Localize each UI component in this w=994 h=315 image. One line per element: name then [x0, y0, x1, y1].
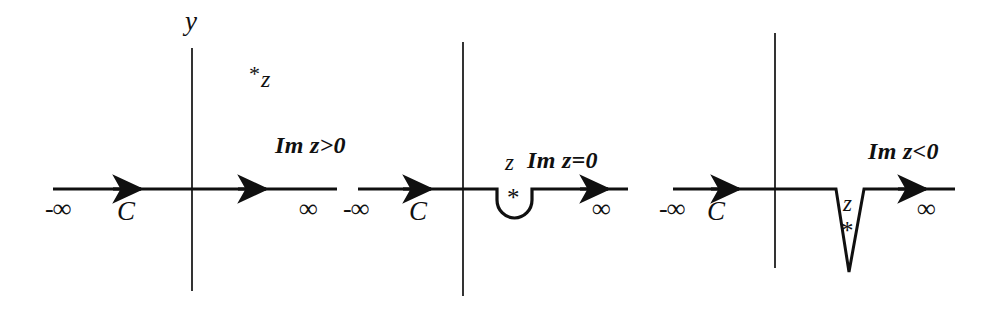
panel-3-right-limit-label: ∞	[917, 196, 935, 222]
panel-1-contour-label: C	[117, 198, 135, 225]
panel-2-condition-label: Im z=0	[527, 148, 598, 172]
panel-1-right-limit-label: ∞	[299, 196, 317, 222]
contour-diagram-canvas	[0, 0, 994, 315]
panel-2-contour-line	[358, 189, 628, 218]
panel-2-pole-name: z	[505, 151, 514, 174]
panel-3-condition-label: Im z<0	[868, 139, 939, 163]
contour-diagram-figure: y *z Im z>0 -∞ C ∞ -∞ C z Im z=0 * ∞ -∞ …	[0, 0, 994, 315]
panel-1-pole-marker-label: *z	[249, 63, 270, 91]
panel-3-pole-asterisk: *	[841, 218, 854, 243]
panel-3-left-limit-label: -∞	[659, 196, 684, 222]
panel-1-pole-asterisk: *	[249, 61, 260, 86]
panel-2-left-limit-label: -∞	[343, 196, 368, 222]
panel-1-left-limit-label: -∞	[45, 196, 70, 222]
panel-1-pole-name: z	[261, 66, 270, 92]
panel-2-right-limit-label: ∞	[592, 196, 610, 222]
panel-1-graphics	[53, 48, 337, 291]
panel-3-contour-label: C	[707, 198, 725, 225]
panel-3-pole-name: z	[843, 192, 852, 215]
panel-1-vertical-axis-label: y	[185, 8, 197, 35]
panel-2-pole-asterisk: *	[507, 185, 520, 210]
panel-2-contour-label: C	[409, 198, 427, 225]
panel-1-condition-label: Im z>0	[275, 133, 346, 157]
